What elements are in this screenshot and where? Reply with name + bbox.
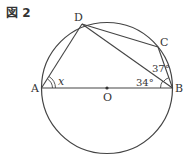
angle-arc-b-37	[164, 78, 169, 82]
angle-label-34: 34°	[136, 77, 154, 88]
angle-arc-a-inner	[48, 79, 53, 88]
label-o: O	[103, 91, 112, 104]
center-point-o	[105, 86, 108, 89]
label-d: D	[74, 11, 83, 24]
segment-db	[82, 24, 173, 88]
label-a: A	[30, 82, 40, 95]
angle-label-x: x	[58, 75, 65, 88]
angle-arc-b-34	[160, 81, 162, 88]
geometry-diagram: A B C D O x 34° 37°	[0, 0, 190, 166]
label-c: C	[160, 36, 168, 49]
angle-label-37: 37°	[152, 63, 170, 74]
label-b: B	[175, 82, 183, 95]
